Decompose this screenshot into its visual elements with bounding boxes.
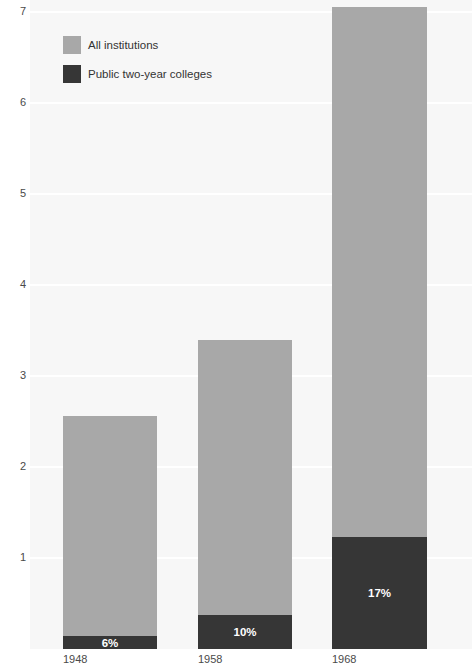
legend-swatch-all-institutions-icon bbox=[63, 36, 81, 54]
legend-label-all-institutions: All institutions bbox=[88, 39, 158, 52]
bar-1948-segment-all-institutions[interactable] bbox=[63, 416, 157, 636]
y-tick-label-4: 4 bbox=[8, 279, 26, 290]
bar-1968-segment-all-institutions[interactable] bbox=[332, 7, 427, 537]
x-tick-label-1948: 1948 bbox=[63, 653, 87, 665]
y-tick-label-7: 7 bbox=[8, 6, 26, 17]
x-tick-label-1968: 1968 bbox=[332, 653, 356, 665]
bar-1948-percent-label: 6% bbox=[63, 637, 157, 649]
bar-1958-segment-public-two-year[interactable]: 10% bbox=[198, 615, 292, 649]
y-tick-label-6: 6 bbox=[8, 97, 26, 108]
bar-1958-percent-label: 10% bbox=[198, 626, 292, 638]
bar-1948-segment-public-two-year[interactable]: 6% bbox=[63, 636, 157, 649]
bar-1968-percent-label: 17% bbox=[332, 587, 427, 599]
y-tick-label-1: 1 bbox=[8, 552, 26, 563]
bar-1968-segment-public-two-year[interactable]: 17% bbox=[332, 537, 427, 649]
bar-1958[interactable]: 10% bbox=[198, 340, 292, 649]
y-tick-label-2: 2 bbox=[8, 461, 26, 472]
x-tick-label-1958: 1958 bbox=[198, 653, 222, 665]
chart-root: 7 6 5 4 3 2 1 6% 10% 17% 1948 1958 1968 … bbox=[0, 0, 472, 670]
bar-1968[interactable]: 17% bbox=[332, 7, 427, 649]
legend-label-public-two-year: Public two-year colleges bbox=[88, 68, 212, 81]
legend-swatch-public-two-year-icon bbox=[63, 65, 81, 83]
y-tick-label-5: 5 bbox=[8, 188, 26, 199]
bar-1948[interactable]: 6% bbox=[63, 416, 157, 649]
bar-1958-segment-all-institutions[interactable] bbox=[198, 340, 292, 616]
y-tick-label-3: 3 bbox=[8, 370, 26, 381]
